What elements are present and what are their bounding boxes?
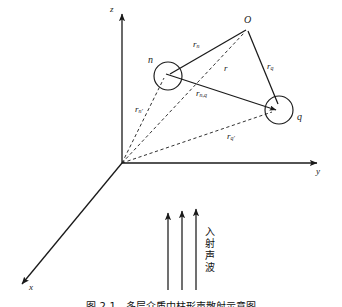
vector-r-np-sub: n' bbox=[139, 108, 143, 114]
r-n-line bbox=[170, 30, 246, 74]
z-axis-label: z bbox=[110, 5, 114, 14]
scatterer-n-circle bbox=[154, 62, 182, 90]
point-O-label: O bbox=[244, 15, 251, 25]
figure-caption: 图 2-1 多层介质中柱形声散射示意图 bbox=[0, 298, 342, 307]
scatterer-q-circle bbox=[265, 96, 293, 124]
x-axis-label: x bbox=[29, 283, 33, 292]
vector-r-qp-label: rq' bbox=[227, 132, 235, 142]
r-q-line bbox=[248, 31, 278, 104]
r-nq-line bbox=[166, 74, 276, 110]
vector-r-q-sub: q bbox=[271, 65, 274, 71]
vector-r-base: r bbox=[224, 63, 228, 73]
vector-r-n-label: rn bbox=[193, 40, 199, 50]
incident-wave-label: 入射声波 bbox=[203, 226, 214, 274]
r-line bbox=[122, 33, 244, 163]
vector-r-np-label: rn' bbox=[135, 105, 143, 115]
point-q-label: q bbox=[297, 112, 302, 122]
incident-wave-arrows bbox=[168, 209, 196, 290]
vector-r-q-label: rq bbox=[267, 62, 273, 72]
vector-r-n-sub: n bbox=[197, 43, 200, 49]
vector-r-qp-sub: q' bbox=[231, 135, 235, 141]
vector-r-label: r bbox=[224, 64, 228, 74]
r-qp-line bbox=[122, 112, 272, 163]
axis-group bbox=[22, 14, 317, 284]
y-axis-label: y bbox=[316, 167, 320, 176]
point-n-label: n bbox=[148, 55, 153, 65]
vector-r-nq-sub: n,q bbox=[200, 92, 207, 98]
x-axis-line bbox=[22, 163, 122, 284]
r-np-line bbox=[122, 78, 164, 163]
vector-r-nq-label: rn,q bbox=[196, 89, 207, 99]
